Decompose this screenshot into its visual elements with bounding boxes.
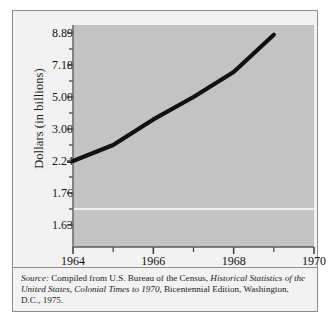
source-line1-italic: Historical Statistics [210,273,282,283]
source-note: Source: Compiled from U.S. Bureau of the… [13,267,317,312]
line-chart-plot [13,11,317,264]
x-axis-ticks [73,247,314,254]
y-axis-ticks [67,33,73,225]
figure-panel: Dollars (in billions) 8.897.185.003.002.… [12,10,318,312]
chart-region: Dollars (in billions) 8.897.185.003.002.… [13,11,317,264]
source-label: Source: [21,273,49,283]
plot-background [73,25,314,247]
source-line1-rest: Compiled from U.S. Bureau of the Census, [49,273,210,283]
source-line2-rest: Bicentennial Edition, [162,284,242,294]
